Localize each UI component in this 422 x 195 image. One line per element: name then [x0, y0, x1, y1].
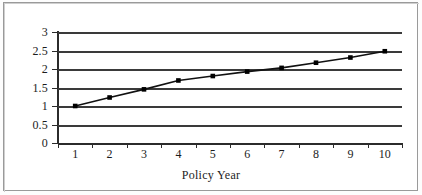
series-markers-group — [73, 49, 387, 108]
data-point-5 — [211, 74, 216, 79]
y-axis-label-2.5: 2.5 — [0, 45, 48, 57]
data-point-4 — [176, 78, 181, 83]
y-axis-label-2: 2 — [0, 63, 48, 75]
x-axis-label-8: 8 — [301, 148, 331, 161]
chart-figure: 00.511.522.53 12345678910 Policy Year — [0, 0, 422, 195]
data-point-7 — [279, 66, 284, 71]
data-point-10 — [383, 49, 388, 54]
x-tick-0 — [58, 143, 59, 148]
y-axis-label-0.5: 0.5 — [0, 119, 48, 131]
x-tick-10 — [402, 143, 403, 148]
x-axis-label-3: 3 — [129, 148, 159, 161]
x-axis-label-6: 6 — [232, 148, 262, 161]
data-point-9 — [348, 55, 353, 60]
x-axis-label-5: 5 — [198, 148, 228, 161]
x-axis-label-1: 1 — [60, 148, 90, 161]
x-tick-8 — [333, 143, 334, 148]
series-polyline — [75, 51, 385, 106]
data-point-2 — [107, 95, 112, 100]
x-axis-label-4: 4 — [163, 148, 193, 161]
x-axis-label-10: 10 — [370, 148, 400, 161]
x-tick-9 — [368, 143, 369, 148]
x-tick-1 — [92, 143, 93, 148]
x-axis-label-9: 9 — [335, 148, 365, 161]
x-tick-7 — [299, 143, 300, 148]
data-point-8 — [314, 60, 319, 65]
x-axis-title: Policy Year — [0, 168, 422, 183]
series-line-chart — [58, 32, 402, 143]
plot-area — [58, 32, 402, 143]
y-axis-label-0: 0 — [0, 137, 48, 149]
y-axis-label-3: 3 — [0, 26, 48, 38]
x-tick-5 — [230, 143, 231, 148]
y-axis-label-1: 1 — [0, 100, 48, 112]
data-point-6 — [245, 69, 250, 74]
y-axis-label-1.5: 1.5 — [0, 82, 48, 94]
x-tick-2 — [127, 143, 128, 148]
data-point-1 — [73, 104, 78, 109]
x-tick-4 — [196, 143, 197, 148]
x-axis-label-2: 2 — [95, 148, 125, 161]
x-tick-6 — [264, 143, 265, 148]
x-tick-3 — [161, 143, 162, 148]
x-axis-label-7: 7 — [267, 148, 297, 161]
data-point-3 — [142, 87, 147, 92]
